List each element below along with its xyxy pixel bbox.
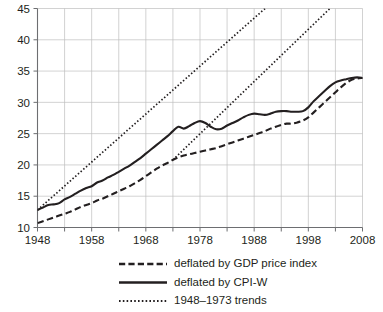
y-axis-tick-label: 20 <box>17 159 30 171</box>
y-axis-tick-label: 40 <box>17 34 30 46</box>
chart-figure: 1015202530354045 19481958196819781988199… <box>0 0 383 312</box>
x-axis-tick-label: 2008 <box>350 234 376 246</box>
x-axis-tick-label: 1968 <box>133 234 159 246</box>
y-axis-tick-label: 35 <box>17 65 30 77</box>
legend-label: deflated by GDP price index <box>174 257 317 269</box>
y-axis-tick-label: 10 <box>17 222 30 234</box>
line-chart: 1015202530354045 19481958196819781988199… <box>0 0 383 312</box>
y-axis-tick-label: 15 <box>17 190 30 202</box>
x-axis-tick-label: 1988 <box>241 234 267 246</box>
legend-label: 1948–1973 trends <box>174 294 267 306</box>
y-axis-tick-label: 25 <box>17 128 30 140</box>
y-axis-tick-label: 45 <box>17 3 30 15</box>
x-axis-tick-label: 1998 <box>296 234 322 246</box>
x-axis-tick-label: 1958 <box>79 234 105 246</box>
x-axis-tick-label: 1978 <box>187 234 213 246</box>
x-axis-tick-label: 1948 <box>25 234 51 246</box>
y-axis-tick-label: 30 <box>17 97 30 109</box>
legend-label: deflated by CPI-W <box>174 276 267 288</box>
